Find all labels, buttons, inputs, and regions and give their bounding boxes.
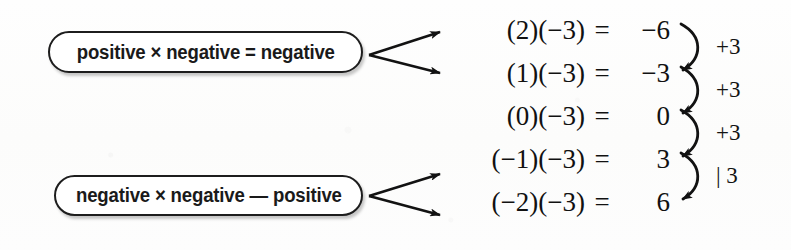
step-curve-1 xyxy=(681,24,698,70)
equation-result: 6 xyxy=(612,187,670,218)
step-curve-4 xyxy=(681,153,698,199)
equation-lhs: (0)(−3) xyxy=(455,101,592,132)
step-label: | 3 xyxy=(716,163,738,189)
equals-sign: = xyxy=(592,187,612,218)
step-curve-group xyxy=(681,24,698,199)
arrow-to-equation-2 xyxy=(369,55,440,73)
equation-lhs: (1)(−3) xyxy=(455,58,592,89)
arrow-to-equation-5 xyxy=(369,196,440,215)
rule-box-positive-times-negative: positive × negative = negative xyxy=(48,31,363,73)
diagram-canvas: positive × negative = negative negative … xyxy=(0,0,791,250)
equals-sign: = xyxy=(592,15,612,46)
equals-sign: = xyxy=(592,58,612,89)
arrow-to-equation-4 xyxy=(369,174,440,196)
equation-row: (2)(−3) = −6 xyxy=(455,10,670,50)
rule-text: positive × negative = negative xyxy=(76,41,334,64)
equation-row: (0)(−3) = 0 xyxy=(455,96,670,136)
equation-lhs: (−2)(−3) xyxy=(455,187,592,218)
equation-row: (1)(−3) = −3 xyxy=(455,53,670,93)
arrow-to-equation-1 xyxy=(369,32,440,55)
equation-result: −3 xyxy=(612,58,670,89)
step-label: +3 xyxy=(716,120,740,146)
step-curve-2 xyxy=(681,67,698,113)
step-label: +3 xyxy=(716,34,740,60)
equation-result: 3 xyxy=(612,144,670,175)
equation-result: −6 xyxy=(612,15,670,46)
equation-row: (−2)(−3) = 6 xyxy=(455,182,670,222)
rule-box-negative-times-negative: negative × negative — positive xyxy=(54,175,363,216)
arrow-group-positive-rule xyxy=(369,32,440,73)
step-curve-3 xyxy=(681,110,698,156)
equation-lhs: (−1)(−3) xyxy=(455,144,592,175)
equals-sign: = xyxy=(592,101,612,132)
equals-sign: = xyxy=(592,144,612,175)
step-label: +3 xyxy=(716,77,740,103)
arrow-group-negative-rule xyxy=(369,174,440,215)
equation-lhs: (2)(−3) xyxy=(455,15,592,46)
equation-result: 0 xyxy=(612,101,670,132)
equation-row: (−1)(−3) = 3 xyxy=(455,139,670,179)
rule-text: negative × negative — positive xyxy=(76,184,342,207)
